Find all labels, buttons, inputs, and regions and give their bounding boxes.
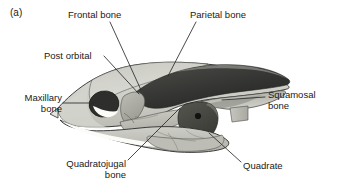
label-squamosal-line1: Squamosal	[268, 89, 334, 100]
label-quadratojugal-bone: Quadratojugal bone	[34, 158, 126, 180]
posterior-process-tab	[230, 106, 248, 122]
figure-panel: (a) Frontal bone Parietal bone Post orbi…	[0, 0, 338, 190]
jaw-pit-2	[135, 116, 137, 118]
label-parietal-bone: Parietal bone	[190, 9, 246, 20]
label-squamosal-line2: bone	[268, 100, 334, 111]
label-squamosal-bone: Squamosal bone	[268, 89, 334, 111]
skull-outline-group	[50, 62, 290, 152]
label-post-orbital: Post orbital	[44, 50, 92, 61]
label-maxillary-line2: bone	[8, 103, 62, 114]
panel-letter: (a)	[10, 7, 22, 18]
label-frontal-bone: Frontal bone	[68, 9, 121, 20]
label-quadratojugal-line1: Quadratojugal	[34, 158, 126, 169]
label-quadratojugal-line2: bone	[34, 169, 126, 180]
quadrate-foramen	[195, 113, 201, 119]
label-quadrate: Quadrate	[243, 160, 283, 171]
label-maxillary-bone: Maxillary bone	[8, 92, 62, 114]
jaw-pit-1	[117, 129, 119, 131]
label-maxillary-line1: Maxillary	[8, 92, 62, 103]
